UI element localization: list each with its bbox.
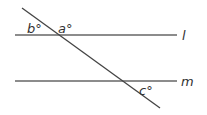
angle-label-b: b° — [27, 21, 42, 36]
line-label-l: l — [182, 28, 186, 43]
angle-label-c: c° — [139, 83, 153, 98]
diagram-canvas: b° a° c° l m — [0, 0, 207, 115]
line-label-m: m — [181, 74, 194, 89]
angle-label-a: a° — [58, 21, 72, 36]
